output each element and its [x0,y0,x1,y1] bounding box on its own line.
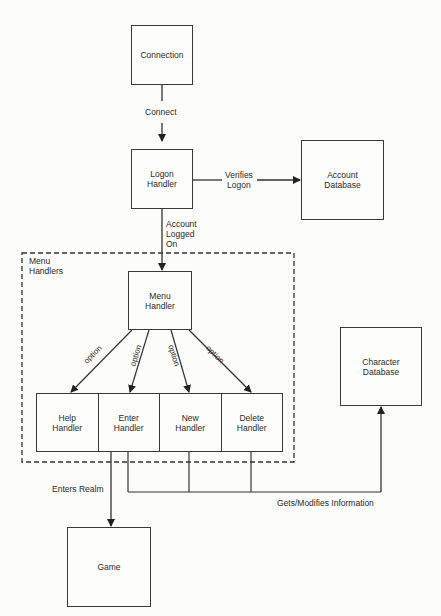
connection-label: Connection [140,50,183,60]
help-handler-node: Help Handler [37,394,99,451]
diagram-canvas: Connection Logon Handler Account Databas… [0,0,441,616]
edge-label-gets-modifies-information: Gets/Modifies Information [277,498,374,508]
connection-node: Connection [131,25,193,85]
edge-label-account-logged-on: Account Logged On [166,219,197,249]
menu-handlers-group-label: Menu Handlers [29,256,63,276]
logon-handler-node: Logon Handler [131,149,193,209]
handler-row: Help Handler Enter Handler New Handler D… [36,393,283,452]
character-database-label: Character Database [362,357,399,377]
edge-label-enters-realm: Enters Realm [52,484,104,494]
enter-handler-node: Enter Handler [99,394,161,451]
account-database-label: Account Database [324,170,360,190]
game-label: Game [97,562,120,572]
connector-lines [0,0,441,616]
new-handler-node: New Handler [160,394,222,451]
game-node: Game [67,527,151,607]
edge-label-verifies-logon: Verifies Logon [225,170,253,190]
character-database-node: Character Database [340,327,422,406]
edge-label-connect: Connect [145,107,177,117]
menu-handler-label: Menu Handler [145,291,175,311]
account-database-node: Account Database [301,140,384,220]
logon-handler-label: Logon Handler [147,169,177,189]
delete-handler-node: Delete Handler [222,394,283,451]
menu-handler-node: Menu Handler [128,271,192,330]
